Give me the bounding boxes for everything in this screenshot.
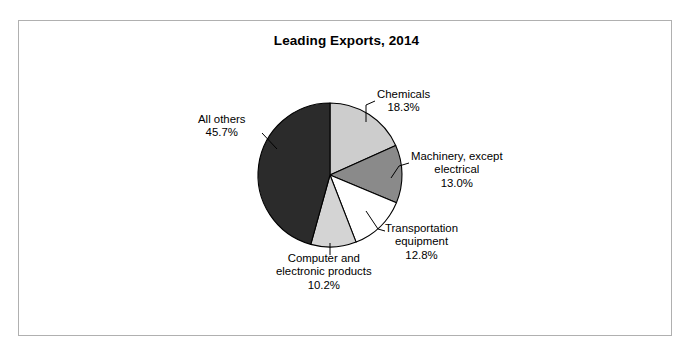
slice-label-transportation: Transportation equipment 12.8%: [385, 222, 458, 262]
slice-label-all-others-name: All others: [198, 113, 245, 126]
slice-label-transportation-name2: equipment: [385, 235, 458, 248]
slice-label-computer-name1: Computer and: [276, 252, 372, 265]
pie-chart: [0, 0, 693, 362]
pie-slices: [258, 103, 402, 247]
slice-label-all-others: All others 45.7%: [198, 113, 245, 140]
figure-canvas: Leading Exports, 2014 Chemicals 18.3% Ma…: [0, 0, 693, 362]
slice-label-machinery: Machinery, except electrical 13.0%: [411, 150, 503, 190]
slice-label-chemicals-value: 18.3%: [377, 101, 430, 114]
slice-label-transportation-value: 12.8%: [385, 249, 458, 262]
slice-label-machinery-name2: electrical: [411, 163, 503, 176]
slice-label-chemicals: Chemicals 18.3%: [377, 88, 430, 115]
slice-label-computer: Computer and electronic products 10.2%: [276, 252, 372, 292]
slice-label-machinery-name1: Machinery, except: [411, 150, 503, 163]
slice-label-chemicals-name: Chemicals: [377, 88, 430, 101]
slice-label-machinery-value: 13.0%: [411, 177, 503, 190]
slice-label-transportation-name1: Transportation: [385, 222, 458, 235]
slice-label-computer-name2: electronic products: [276, 265, 372, 278]
slice-label-computer-value: 10.2%: [276, 279, 372, 292]
slice-label-all-others-value: 45.7%: [198, 126, 245, 139]
